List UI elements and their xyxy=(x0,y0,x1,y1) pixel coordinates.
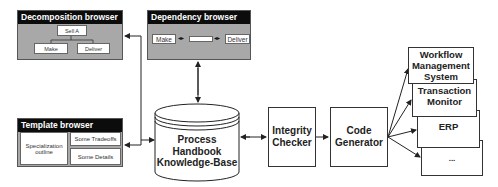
code-generator: Code Generator xyxy=(330,107,388,167)
target-transaction-monitor: Transaction Monitor xyxy=(412,79,477,117)
knowledge-base-label: Process Handbook Knowledge-Base xyxy=(155,134,239,169)
target-workflow-management-system: Workflow Management System xyxy=(408,47,474,84)
integrity-checker: Integrity Checker xyxy=(268,107,316,167)
